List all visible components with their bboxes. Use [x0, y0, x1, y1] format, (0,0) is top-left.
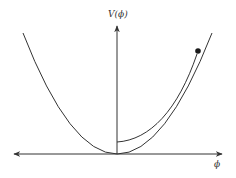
trajectory-curve [117, 54, 197, 142]
diagram-canvas [0, 0, 236, 178]
x-axis-label: ϕ [214, 159, 220, 169]
y-axis-label: V(ϕ) [108, 9, 128, 19]
potential-diagram: V(ϕ) ϕ [0, 0, 236, 178]
field-position-dot [195, 48, 201, 54]
